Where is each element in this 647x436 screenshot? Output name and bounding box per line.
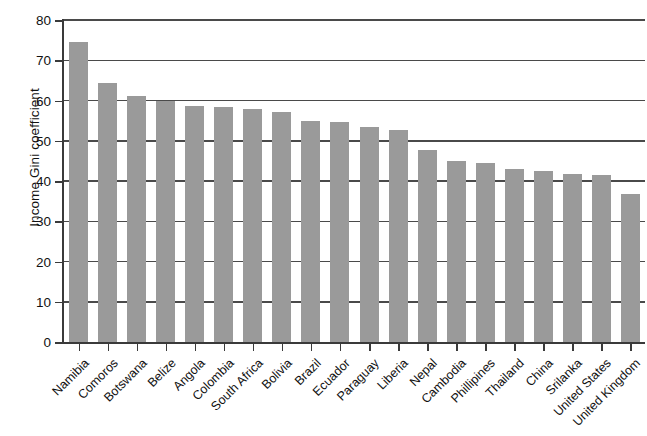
x-axis-tick-mark	[195, 344, 197, 351]
bar	[534, 171, 553, 342]
y-axis-tick-mark	[55, 262, 63, 264]
bar	[127, 96, 146, 342]
bar	[389, 130, 408, 342]
x-axis-tick-label-text: Liberia	[375, 356, 411, 392]
y-axis-tick-label: 80	[36, 13, 51, 28]
x-axis-tick-label-text: Bolivia	[259, 356, 295, 392]
y-axis-tick-mark	[55, 342, 63, 344]
y-axis-tick-label: 10	[36, 294, 51, 309]
y-axis-tick-label: 50	[36, 133, 51, 148]
bar	[156, 101, 175, 342]
y-axis-tick-label: 60	[36, 93, 51, 108]
y-axis-tick-label: 30	[36, 214, 51, 229]
y-axis-tick-mark	[55, 181, 63, 183]
bar	[98, 83, 117, 342]
x-axis-tick-mark	[514, 344, 516, 351]
x-axis-tick-mark	[340, 344, 342, 351]
bar-chart: Income Gini coefficient 0102030405060708…	[0, 0, 647, 436]
x-axis-tick-mark	[224, 344, 226, 351]
bar	[505, 169, 524, 342]
y-axis-tick-label: 20	[36, 254, 51, 269]
x-axis-tick-mark	[543, 344, 545, 351]
bar	[476, 163, 495, 342]
x-axis-tick-mark	[166, 344, 168, 351]
x-axis-tick-mark	[456, 344, 458, 351]
x-axis-tick-mark	[369, 344, 371, 351]
x-axis-tick-mark	[253, 344, 255, 351]
x-axis-tick-mark	[601, 344, 603, 351]
y-axis-tick-label: 70	[36, 53, 51, 68]
x-axis-tick-mark	[630, 344, 632, 351]
bar	[243, 109, 262, 342]
x-axis-tick-mark	[79, 344, 81, 351]
bar	[563, 174, 582, 342]
bar	[272, 112, 291, 342]
x-axis-tick-label: Bolivia	[259, 356, 295, 392]
x-axis-tick-mark	[137, 344, 139, 351]
y-axis-tick-label: 0	[43, 335, 51, 350]
y-axis-tick-mark	[55, 141, 63, 143]
plot-area: 01020304050607080 NamibiaComorosBotswana…	[62, 20, 645, 342]
x-axis-tick-mark	[311, 344, 313, 351]
bar	[360, 127, 379, 342]
bar	[214, 107, 233, 342]
bar	[185, 106, 204, 342]
y-axis-tick-mark	[55, 221, 63, 223]
bar	[301, 121, 320, 342]
bar-series	[64, 20, 645, 342]
x-axis-tick-label: Liberia	[375, 356, 411, 392]
bar	[330, 122, 349, 342]
y-axis-tick-mark	[55, 101, 63, 103]
bar	[418, 150, 437, 342]
bar	[592, 175, 611, 342]
bar	[447, 161, 466, 342]
x-axis-tick-mark	[108, 344, 110, 351]
y-axis-tick-mark	[55, 60, 63, 62]
x-axis-tick-mark	[485, 344, 487, 351]
y-axis-tick-label: 40	[36, 174, 51, 189]
x-axis-line	[62, 342, 645, 344]
x-axis-tick-mark	[282, 344, 284, 351]
bar	[621, 194, 640, 342]
x-axis-tick-mark	[572, 344, 574, 351]
x-axis-tick-mark	[427, 344, 429, 351]
bar	[69, 42, 88, 342]
y-axis-tick-mark	[55, 302, 63, 304]
x-axis-tick-mark	[398, 344, 400, 351]
y-axis-tick-mark	[55, 20, 63, 22]
